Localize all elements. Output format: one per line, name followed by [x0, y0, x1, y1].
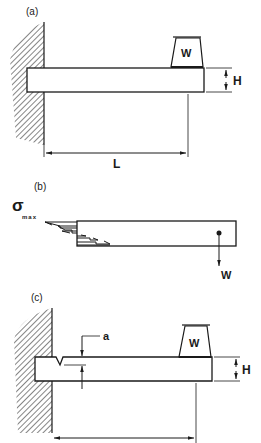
weight-label: W — [189, 337, 200, 349]
stress-symbol: σ — [12, 196, 24, 215]
panel-b: (b) σ max W — [12, 181, 236, 281]
crack-depth-label: a — [103, 330, 110, 342]
force-label: W — [221, 269, 232, 281]
stress-subscript: max — [22, 214, 37, 220]
notched-beam — [35, 357, 212, 381]
beam — [27, 68, 204, 92]
panel-a-label: (a) — [26, 6, 38, 17]
cantilever-beam-diagram: (a) W H L (b) σ max — [0, 0, 261, 443]
panel-b-label: (b) — [34, 181, 46, 192]
beam-section — [77, 221, 236, 246]
height-label: H — [233, 74, 242, 88]
weight-label: W — [181, 47, 192, 59]
length-label: L — [113, 157, 120, 171]
panel-c-label: (c) — [31, 292, 43, 303]
height-label: H — [242, 363, 251, 377]
panel-a: (a) W H L — [10, 6, 242, 171]
panel-c: (c) a W H — [14, 292, 251, 443]
